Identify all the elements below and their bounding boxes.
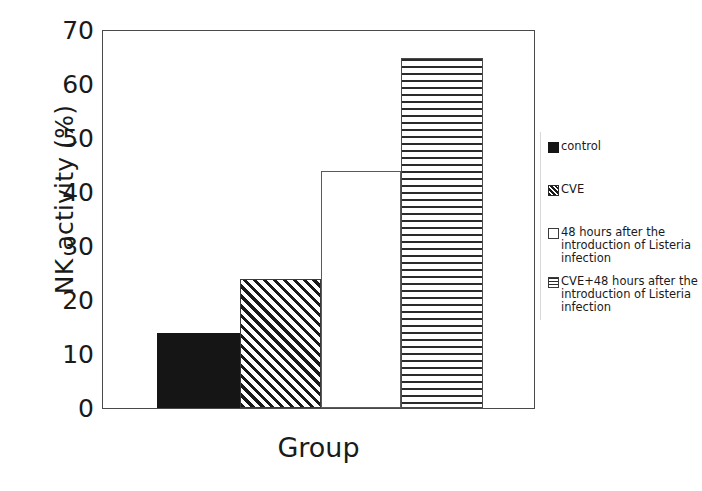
legend-swatch-horizontal-lines-icon [548,277,559,288]
chart-legend: control CVE 48 hours after the introduct… [548,140,700,324]
legend-swatch-solid-black-icon [548,142,559,153]
legend-label-cve: CVE [561,183,584,196]
y-tick-40: 40 [48,180,94,205]
legend-divider [540,132,541,320]
bar-series [103,31,534,408]
legend-swatch-diagonal-hatch-icon [548,185,559,196]
bar-cve-48h-listeria [401,58,483,408]
y-axis-tick-labels: 70 60 50 40 30 20 10 0 [44,0,94,491]
legend-item-48h-listeria: 48 hours after the introduction of Liste… [548,226,700,265]
legend-item-control: control [548,140,700,153]
legend-item-cve-48h-listeria: CVE+48 hours after the introduction of L… [548,275,700,314]
x-axis-title: Group [102,432,535,463]
legend-label-control: control [561,140,601,153]
y-tick-30: 30 [48,234,94,259]
legend-label-48h-listeria: 48 hours after the introduction of Liste… [561,226,700,265]
y-tick-70: 70 [48,18,94,43]
bar-cve [240,279,321,408]
y-tick-0: 0 [48,396,94,421]
legend-label-cve-48h-listeria: CVE+48 hours after the introduction of L… [561,275,700,314]
y-tick-10: 10 [48,342,94,367]
plot-area [102,30,535,409]
legend-swatch-white-empty-icon [548,228,559,239]
y-tick-20: 20 [48,288,94,313]
legend-item-cve: CVE [548,183,700,196]
y-tick-50: 50 [48,126,94,151]
y-tick-60: 60 [48,72,94,97]
bar-48h-listeria [321,171,401,408]
bar-chart-figure: NK activity (%) 70 60 50 40 30 20 10 0 G… [0,0,702,491]
bar-control [157,333,240,408]
figure-bottom-margin [0,468,702,491]
